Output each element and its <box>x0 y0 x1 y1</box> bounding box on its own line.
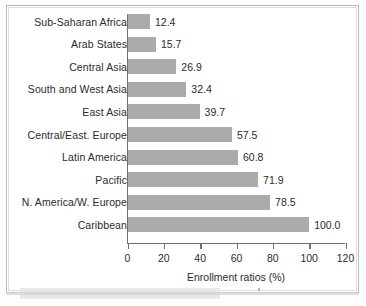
scan-speck <box>258 288 260 291</box>
chart-page: Sub-Saharan Africa12.4Arab States15.7Cen… <box>0 0 366 306</box>
bar-value-label: 100.0 <box>314 219 340 231</box>
bar <box>128 195 271 210</box>
x-axis-tick <box>273 243 274 249</box>
bar <box>128 59 177 74</box>
bar <box>128 104 200 119</box>
bar-value-label: 57.5 <box>237 129 257 141</box>
x-axis-tick <box>237 243 238 249</box>
bar-chart-plot-area: Sub-Saharan Africa12.4Arab States15.7Cen… <box>0 0 366 306</box>
category-label: South and West Asia <box>28 83 127 95</box>
bar <box>128 37 157 52</box>
x-axis-tick-label: 80 <box>267 252 279 264</box>
x-axis-tick <box>309 243 310 249</box>
bar-value-label: 60.8 <box>243 151 263 163</box>
scan-shadow-edge <box>6 292 359 295</box>
x-axis-tick <box>128 243 129 249</box>
x-axis-title: Enrollment ratios (%) <box>127 271 345 283</box>
category-label: Central Asia <box>69 61 127 73</box>
category-label: Caribbean <box>78 219 127 231</box>
x-axis-tick <box>164 243 165 249</box>
bar-value-label: 39.7 <box>205 106 225 118</box>
x-axis-tick-label: 40 <box>194 252 206 264</box>
category-label: East Asia <box>82 106 127 118</box>
bar <box>128 127 232 142</box>
bar-value-label: 15.7 <box>161 38 181 50</box>
x-axis-tick-label: 100 <box>300 252 318 264</box>
bar-value-label: 71.9 <box>263 174 283 186</box>
category-label: Pacific <box>95 174 127 186</box>
x-axis-tick-label: 20 <box>158 252 170 264</box>
bar-value-label: 12.4 <box>155 16 175 28</box>
category-label: Latin America <box>62 151 127 163</box>
x-axis-tick-label: 120 <box>337 252 355 264</box>
bar <box>128 14 151 29</box>
bar <box>128 82 187 97</box>
category-label: Arab States <box>71 38 127 50</box>
bar <box>128 150 238 165</box>
x-axis-tick-label: 60 <box>231 252 243 264</box>
category-label: N. America/W. Europe <box>22 196 127 208</box>
bar-value-label: 26.9 <box>181 61 201 73</box>
bar <box>128 217 310 232</box>
bar-value-label: 78.5 <box>275 196 295 208</box>
bar-value-label: 32.4 <box>191 83 211 95</box>
x-axis-tick-label: 0 <box>125 252 131 264</box>
category-label: Central/East. Europe <box>28 129 127 141</box>
category-label: Sub-Saharan Africa <box>34 16 127 28</box>
bar <box>128 172 259 187</box>
x-axis-tick <box>346 243 347 249</box>
x-axis-tick <box>200 243 201 249</box>
